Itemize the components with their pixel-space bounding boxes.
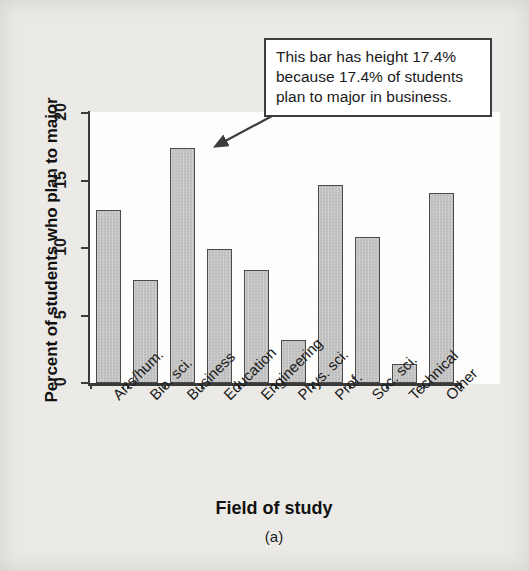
y-axis-title: Percent of students who plan to major bbox=[42, 80, 62, 420]
callout-text: This bar has height 17.4% because 17.4% … bbox=[276, 47, 481, 107]
x-axis-title: Field of study bbox=[88, 498, 460, 519]
x-axis-tick-0 bbox=[90, 383, 92, 389]
bar-business bbox=[170, 148, 196, 383]
bar-arts-hum bbox=[96, 210, 122, 383]
bar-soc-sci bbox=[355, 237, 381, 383]
y-axis-tick-10 bbox=[81, 247, 89, 249]
y-axis-tick-20 bbox=[81, 112, 89, 114]
y-axis-tick-15 bbox=[81, 180, 89, 182]
figure-caption: (a) bbox=[88, 528, 460, 545]
figure-panel-a: 05101520 Arts/hum.Bio. sci.BusinessEduca… bbox=[0, 0, 529, 571]
y-axis-tick-0 bbox=[81, 382, 89, 384]
callout-box: This bar has height 17.4% because 17.4% … bbox=[264, 38, 492, 117]
y-axis-tick-5 bbox=[81, 315, 89, 317]
